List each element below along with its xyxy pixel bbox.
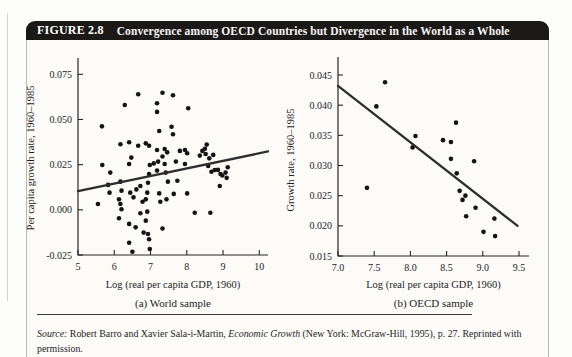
x-tick-label: 9.5 [513, 262, 526, 273]
scatter-point [138, 184, 143, 189]
x-tick-label: 8 [184, 261, 189, 272]
scatter-point [107, 190, 112, 195]
scatter-point [185, 191, 190, 196]
scatter-point [457, 189, 462, 194]
x-tick-label: 5 [76, 261, 81, 272]
scatter-point [117, 197, 122, 202]
scatter-point [155, 110, 160, 115]
scatter-point [145, 209, 150, 214]
scatter-point [96, 202, 101, 207]
scatter-point [174, 159, 179, 164]
scatter-point [157, 191, 162, 196]
scatter-point [223, 170, 228, 175]
trend-line [338, 86, 518, 226]
scatter-point [127, 240, 132, 245]
y-tick-label: 0.050 [50, 114, 73, 125]
y-tick-label: 0.035 [310, 130, 333, 141]
scatter-point [463, 193, 468, 198]
scatter-point [365, 186, 370, 191]
scatter-point [100, 163, 105, 168]
scatter-point [155, 168, 160, 173]
scatter-point [454, 120, 459, 125]
scatter-point [162, 162, 167, 167]
scatter-point [165, 150, 170, 155]
scatter-point [127, 222, 132, 227]
x-axis-title: Log (real per capita GDP, 1960) [106, 279, 241, 291]
x-tick-label: 10 [254, 261, 264, 272]
y-tick-label: 0.025 [50, 159, 73, 170]
x-tick-label: 7.0 [332, 262, 345, 273]
scatter-point [481, 230, 486, 235]
y-tick-label: 0.075 [50, 69, 73, 80]
scatter-point [185, 151, 190, 156]
scatter-point [175, 178, 180, 183]
y-axis-title: Growth rate, 1960–1985 [285, 109, 296, 212]
scatter-point [156, 159, 161, 164]
source-divider [37, 314, 472, 315]
y-tick-label: -0.025 [46, 250, 72, 261]
scatter-point [472, 159, 477, 164]
scatter-point [166, 179, 171, 184]
scatter-point [118, 142, 123, 147]
scatter-point [136, 143, 141, 148]
scatter-point [158, 199, 163, 204]
chart-caption: (b) OECD sample [394, 297, 474, 310]
scatter-point [493, 234, 498, 239]
source-work-title: Economic Growth [228, 328, 300, 339]
source-text: Source: Robert Barro and Xavier Sala-i-M… [37, 327, 526, 357]
x-axis-title: Log (real per capita GDP, 1960) [366, 279, 501, 291]
scatter-point [147, 163, 152, 168]
scatter-point [160, 90, 165, 95]
y-tick-label: 0.030 [310, 160, 333, 171]
scatter-point [374, 104, 379, 109]
y-tick-label: 0.020 [310, 220, 333, 231]
scatter-point [383, 80, 388, 85]
x-tick-label: 7 [148, 261, 153, 272]
scatter-point [186, 106, 191, 111]
y-tick-label: 0.015 [310, 251, 333, 262]
scatter-point [169, 124, 174, 129]
scatter-point [164, 197, 169, 202]
scatter-point [192, 210, 197, 215]
x-tick-label: 9.0 [477, 262, 490, 273]
scatter-point [144, 197, 149, 202]
scatter-point [129, 155, 134, 160]
chart-world-sample: 56789100.0750.0500.0250.000-0.025Log (re… [25, 58, 268, 310]
source-authors: Robert Barro and Xavier Sala-i-Martin, [67, 328, 228, 339]
scatter-point [128, 190, 133, 195]
scatter-point [207, 156, 212, 161]
scatter-point [208, 210, 213, 215]
scatter-point [464, 214, 469, 219]
scatter-point [151, 161, 156, 166]
scatter-point [171, 192, 176, 197]
scatter-point [178, 149, 183, 154]
scatter-point [146, 232, 151, 237]
y-tick-label: 0.025 [310, 190, 333, 201]
scatter-point [131, 195, 136, 200]
scatter-point [108, 170, 113, 175]
x-tick-label: 9 [221, 261, 226, 272]
scatter-point [117, 216, 122, 221]
scatter-point [203, 146, 208, 151]
scatter-point [441, 138, 446, 143]
y-tick-label: 0.040 [310, 100, 333, 111]
x-tick-label: 6 [112, 261, 117, 272]
scatter-point [454, 171, 459, 176]
scatter-point [171, 132, 176, 137]
scatter-point [134, 187, 139, 192]
charts-canvas: 56789100.0750.0500.0250.000-0.025Log (re… [0, 0, 572, 357]
scatter-point [138, 211, 143, 216]
scatter-point [171, 93, 176, 98]
scatter-point [183, 162, 188, 167]
scatter-point [127, 140, 132, 145]
scatter-point [204, 142, 209, 147]
scatter-point [141, 230, 146, 235]
scatter-point [198, 153, 203, 158]
y-tick-label: 0.045 [310, 70, 333, 81]
scatter-point [157, 129, 162, 134]
scatter-point [225, 165, 230, 170]
scatter-point [155, 148, 160, 153]
x-tick-label: 8.5 [440, 262, 453, 273]
scatter-point [460, 198, 465, 203]
y-axis-title: Per capita growth rate, 1960–1985 [25, 86, 36, 231]
